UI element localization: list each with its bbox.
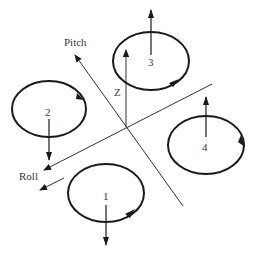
rotor-3-label: 3 bbox=[148, 56, 154, 68]
quadrotor-diagram: Pitch Roll Z 3 2 4 1 bbox=[0, 0, 253, 254]
z-axis-label: Z bbox=[114, 86, 121, 98]
rotor-4: 4 bbox=[168, 97, 245, 174]
roll-axis-label: Roll bbox=[19, 170, 38, 182]
rotor-4-label: 4 bbox=[202, 141, 208, 153]
rotor-1-label: 1 bbox=[103, 190, 109, 202]
z-axis: Z bbox=[114, 50, 126, 127]
rotor-3: 3 bbox=[113, 10, 189, 90]
pitch-axis-label: Pitch bbox=[64, 36, 87, 48]
rotor-1: 1 bbox=[68, 164, 144, 245]
rotor-2: 2 bbox=[12, 81, 86, 160]
rotor-2-label: 2 bbox=[45, 106, 51, 118]
roll-rotation-arrow bbox=[40, 178, 64, 190]
roll-axis-line bbox=[44, 84, 212, 170]
pitch-axis-line bbox=[75, 55, 183, 206]
